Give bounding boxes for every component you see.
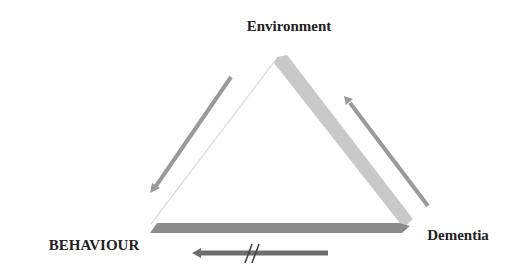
arrow-dementia-to-behaviour-blocked [192, 244, 328, 263]
label-dementia: Dementia [427, 227, 489, 243]
triangle-side-bottom [150, 223, 410, 233]
triangle [150, 55, 413, 233]
label-environment: Environment [247, 18, 332, 34]
environment-behaviour-dementia-diagram: Environment BEHAVIOUR Dementia [0, 0, 532, 280]
triangle-side-right [274, 55, 413, 229]
triangle-side-left [151, 58, 277, 224]
label-behaviour: BEHAVIOUR [49, 237, 140, 253]
